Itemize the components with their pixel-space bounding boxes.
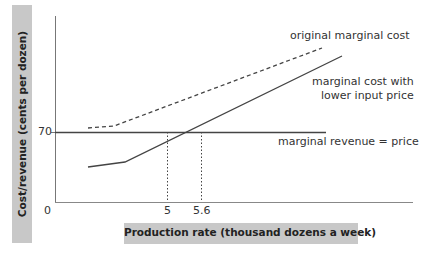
x-tick-label-5: 5	[164, 204, 171, 217]
lower-marginal-cost-line	[88, 56, 342, 167]
x-axis-label: Production rate (thousand dozens a week)	[124, 226, 358, 238]
original-marginal-cost-line	[88, 48, 322, 128]
annotation-lower-cost-line2: lower input price	[321, 89, 414, 103]
y-tick-label-0: 0	[44, 204, 51, 217]
annotation-lower-cost-line1: marginal cost with	[312, 75, 414, 89]
annotation-marginal-revenue: marginal revenue = price	[278, 135, 419, 149]
annotation-original-marginal-cost: original marginal cost	[290, 29, 410, 43]
y-tick-label-70: 70	[38, 125, 52, 138]
x-axis-label-box: Production rate (thousand dozens a week)	[124, 223, 358, 244]
x-tick-label-5-6: 5.6	[193, 204, 211, 217]
